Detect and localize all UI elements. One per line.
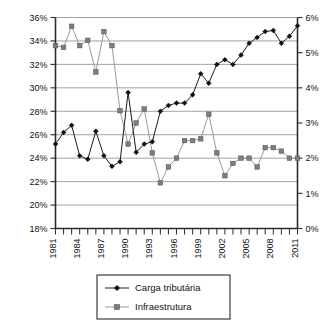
right-axis-tick-label: 4% <box>306 83 319 93</box>
left-axis: 18%20%22%24%26%28%30%32%34%36% <box>29 13 55 234</box>
data-point-marker <box>295 156 300 161</box>
left-axis-tick-label: 32% <box>29 60 47 70</box>
data-point-marker <box>247 156 252 161</box>
chart-legend: Carga tributáriaInfraestrutura <box>97 275 230 319</box>
data-point-marker <box>190 138 195 143</box>
right-axis-tick-label: 3% <box>306 118 319 128</box>
left-axis-tick-label: 30% <box>29 83 47 93</box>
data-point-marker <box>85 38 90 43</box>
data-point-marker <box>77 153 82 158</box>
x-axis-tick-label: 2005 <box>241 239 251 259</box>
gridlines-group <box>56 18 298 206</box>
left-axis-tick-label: 26% <box>29 130 47 140</box>
data-point-marker <box>150 151 155 156</box>
data-point-marker <box>255 165 260 170</box>
data-point-marker <box>102 29 107 34</box>
data-point-marker <box>174 156 179 161</box>
x-axis-tick-label: 1999 <box>193 239 203 259</box>
x-axis-tick-label: 1987 <box>96 239 106 259</box>
data-point-marker <box>231 161 236 166</box>
x-axis-tick-label: 1981 <box>48 239 58 259</box>
data-point-marker <box>126 142 131 147</box>
right-axis-tick-label: 5% <box>306 48 319 58</box>
x-axis-tick-label: 1993 <box>144 239 154 259</box>
x-axis-tick-label: 2008 <box>265 239 275 259</box>
series-line <box>56 26 298 167</box>
x-axis-tick-label: 1990 <box>120 239 130 259</box>
left-axis-tick-label: 20% <box>29 200 47 210</box>
data-point-marker <box>110 43 115 48</box>
data-point-marker <box>61 45 66 50</box>
data-point-marker <box>263 145 268 150</box>
x-axis <box>56 229 298 235</box>
data-point-marker <box>53 43 58 48</box>
data-point-marker <box>182 138 187 143</box>
data-point-marker <box>198 137 203 142</box>
legend-item-label: Carga tributária <box>135 282 201 293</box>
right-axis-tick-label: 2% <box>306 153 319 163</box>
data-point-marker <box>158 180 163 185</box>
data-point-marker <box>85 157 90 162</box>
data-point-marker <box>126 90 131 95</box>
left-axis-tick-label: 18% <box>29 224 47 234</box>
data-point-marker <box>223 173 228 178</box>
data-point-marker <box>69 24 74 29</box>
legend-marker-square-icon <box>114 304 119 309</box>
right-axis-tick-label: 6% <box>306 13 319 23</box>
data-point-marker <box>77 43 82 48</box>
left-axis-tick-label: 22% <box>29 177 47 187</box>
data-point-marker <box>118 108 123 113</box>
data-point-marker <box>118 159 123 164</box>
x-axis-tick-label: 2011 <box>290 239 300 258</box>
data-point-marker <box>142 107 147 112</box>
data-point-marker <box>271 28 276 33</box>
dual-axis-line-chart: 18%20%22%24%26%28%30%32%34%36% 0%1%2%3%4… <box>0 0 336 329</box>
left-axis-tick-label: 28% <box>29 107 47 117</box>
data-point-marker <box>222 57 227 62</box>
x-axis-tick-label: 2002 <box>217 239 227 259</box>
data-point-marker <box>215 151 220 156</box>
right-axis: 0%1%2%3%4%5%6% <box>298 13 319 234</box>
right-axis-tick-label: 1% <box>306 189 319 199</box>
right-axis-tick-label: 0% <box>306 224 319 234</box>
data-point-marker <box>94 70 99 75</box>
data-point-marker <box>239 156 244 161</box>
left-axis-tick-label: 24% <box>29 153 47 163</box>
data-point-marker <box>166 165 171 170</box>
data-point-marker <box>174 101 179 106</box>
x-axis-tick-label: 1996 <box>169 239 179 259</box>
data-point-marker <box>287 156 292 161</box>
chart-container: 18%20%22%24%26%28%30%32%34%36% 0%1%2%3%4… <box>0 0 336 329</box>
data-point-marker <box>206 112 211 117</box>
left-axis-tick-label: 34% <box>29 36 47 46</box>
x-axis-tick-labels: 1981198419871990199319961999200220052008… <box>48 239 300 259</box>
data-point-marker <box>134 121 139 126</box>
data-point-marker <box>93 129 98 134</box>
data-point-marker <box>271 145 276 150</box>
left-axis-tick-label: 36% <box>29 13 47 23</box>
x-axis-tick-label: 1984 <box>72 239 82 259</box>
data-point-marker <box>279 149 284 154</box>
data-point-marker <box>214 62 219 67</box>
legend-item-label: Infraestrutura <box>135 301 192 312</box>
